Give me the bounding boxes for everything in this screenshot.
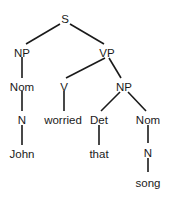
node-det: Det (90, 114, 109, 126)
node-nom2: Nom (136, 114, 160, 126)
node-n2: N (144, 147, 152, 159)
node-that: that (89, 148, 109, 160)
node-vp: VP (99, 47, 115, 59)
parse-tree: SNPVPNomVNPNworriedDetNomJohnthatNsong (0, 0, 175, 203)
node-john: John (10, 148, 35, 160)
node-worried: worried (43, 114, 82, 126)
edge-np2-det (101, 92, 120, 111)
tree-nodes: SNPVPNomVNPNworriedDetNomJohnthatNsong (10, 13, 161, 189)
edge-vp-np2 (109, 58, 121, 78)
node-np1: NP (14, 47, 30, 59)
edge-s-np1 (26, 24, 60, 44)
tree-edges (22, 24, 148, 172)
node-nom1: Nom (10, 81, 34, 93)
edge-np2-nom2 (128, 92, 146, 111)
edge-vp-v (66, 58, 105, 78)
node-s: S (61, 13, 69, 25)
edge-s-vp (70, 24, 104, 44)
node-np2: NP (116, 81, 132, 93)
node-n1: N (18, 114, 26, 126)
node-song: song (136, 177, 161, 189)
node-v: V (60, 81, 68, 93)
